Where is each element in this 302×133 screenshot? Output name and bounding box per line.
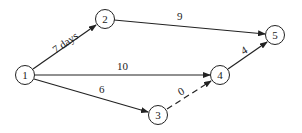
edge-label: 7 days: [50, 29, 80, 55]
network-diagram: 7 days 9 10 6 0 4 1 2 3 4 5: [0, 0, 302, 133]
node-label: 1: [22, 69, 28, 81]
node-1: 1: [16, 66, 35, 85]
edge-label: 0: [175, 84, 186, 97]
node-5: 5: [266, 26, 285, 45]
edge-label: 9: [177, 10, 183, 22]
edge-4-5: 4: [228, 42, 267, 69]
node-label: 4: [217, 69, 223, 81]
edge-label: 6: [99, 83, 105, 95]
edge-1-3: 6: [34, 79, 148, 112]
node-label: 3: [155, 109, 161, 121]
node-2: 2: [96, 10, 115, 29]
edge-1-4: 10: [35, 60, 210, 75]
node-label: 2: [102, 13, 108, 25]
node-4: 4: [211, 66, 230, 85]
edge-2-5: 9: [114, 10, 265, 34]
edge-1-2: 7 days: [33, 25, 96, 69]
edge-label: 10: [117, 60, 129, 72]
edge-3-4: 0: [167, 81, 211, 109]
node-3: 3: [149, 106, 168, 125]
node-label: 5: [272, 29, 278, 41]
